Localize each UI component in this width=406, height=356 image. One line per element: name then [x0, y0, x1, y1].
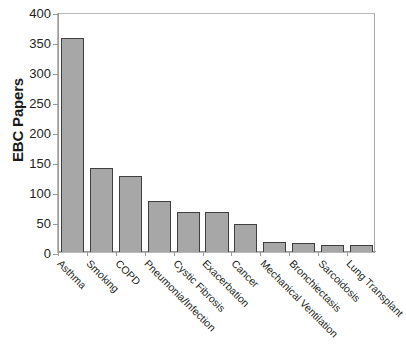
bar — [234, 224, 257, 252]
y-axis-tick-label: 0 — [7, 247, 51, 260]
y-axis-tick — [53, 134, 58, 135]
y-axis-tick-label: 350 — [7, 37, 51, 50]
y-axis-tick — [53, 164, 58, 165]
y-axis-tick-label: 50 — [7, 217, 51, 230]
y-axis-tick-label: 150 — [7, 157, 51, 170]
plot-area — [57, 13, 375, 253]
y-axis-tick — [53, 194, 58, 195]
y-axis-tick-label: 200 — [7, 127, 51, 140]
y-axis-tick-label: 400 — [7, 7, 51, 20]
y-axis-tick-label: 250 — [7, 97, 51, 110]
bar — [61, 38, 84, 252]
bar — [205, 212, 228, 252]
bar — [263, 242, 286, 252]
plot-inner — [58, 14, 374, 252]
bar — [90, 168, 113, 252]
bar — [321, 245, 344, 252]
bar — [119, 176, 142, 252]
y-axis-tick-label: 300 — [7, 67, 51, 80]
bar — [148, 201, 171, 252]
y-axis-tick-labels: 050100150200250300350400 — [0, 13, 51, 253]
y-axis-tick — [53, 74, 58, 75]
y-axis-tick — [53, 104, 58, 105]
x-axis-category-labels: AsthmaSmokingCOPDPneumonia/InfectionCyst… — [57, 254, 383, 356]
bar — [350, 245, 373, 252]
y-axis-tick-label: 100 — [7, 187, 51, 200]
x-axis-label: Asthma — [56, 258, 89, 291]
bar — [292, 243, 315, 252]
bar — [177, 212, 200, 252]
y-axis-tick — [53, 224, 58, 225]
y-axis-line — [58, 13, 59, 254]
y-axis-tick — [53, 14, 58, 15]
y-axis-tick — [53, 44, 58, 45]
